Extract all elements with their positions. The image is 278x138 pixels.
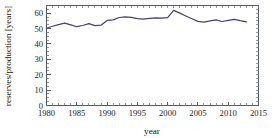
x-tick-label: 2005	[189, 108, 206, 118]
y-tick-label: 50	[34, 24, 43, 34]
x-tick-label: 1985	[68, 108, 85, 118]
x-tick-label: 2000	[159, 108, 176, 118]
y-tick-label: 60	[34, 8, 43, 18]
y-tick-label: 30	[34, 54, 43, 64]
x-tick-label: 2015	[250, 108, 267, 118]
reserves-production-chart: 19801985199019952000200520102015 0102030…	[0, 0, 278, 138]
x-axis-tick-labels: 19801985199019952000200520102015	[38, 108, 267, 118]
x-tick-label: 1990	[98, 108, 115, 118]
y-axis-title: reserves/production [years]	[3, 6, 13, 106]
x-tick-label: 2010	[220, 108, 237, 118]
chart-canvas: 19801985199019952000200520102015 0102030…	[0, 0, 278, 138]
x-axis-title: year	[144, 126, 160, 136]
x-axis-major-ticks	[47, 102, 259, 106]
data-series-line	[47, 10, 247, 28]
y-tick-label: 0	[39, 101, 43, 111]
series-line-reserves-production	[47, 10, 247, 28]
y-tick-label: 10	[34, 85, 43, 95]
x-tick-label: 1995	[129, 108, 146, 118]
y-tick-label: 20	[34, 70, 43, 80]
y-tick-label: 40	[34, 39, 43, 49]
y-axis-tick-labels: 0102030405060	[34, 8, 43, 110]
